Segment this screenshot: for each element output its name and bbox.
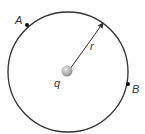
point-b-label: B	[132, 83, 139, 95]
charge-circle-diagram: A B r q	[0, 0, 145, 134]
radius-label: r	[90, 40, 95, 52]
point-a-label: A	[14, 14, 22, 26]
point-charge	[62, 66, 73, 77]
point-a-dot	[25, 23, 29, 27]
charge-label: q	[54, 77, 61, 89]
point-b-dot	[126, 82, 130, 86]
radius-arrow	[70, 23, 103, 69]
